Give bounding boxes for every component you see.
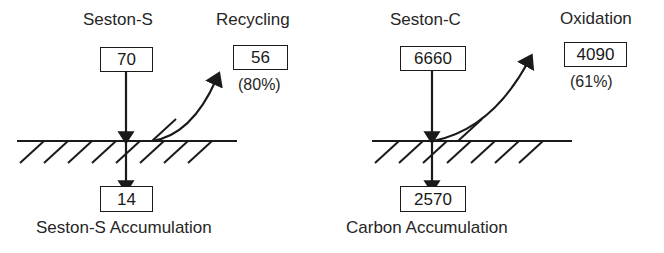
flux-percent: (61%) <box>570 73 613 91</box>
flux-percent: (80%) <box>238 76 281 94</box>
sink-value-box: 14 <box>100 186 153 212</box>
source-label: Seston-S <box>83 10 153 30</box>
sink-caption: Seston-S Accumulation <box>36 218 212 238</box>
source-label: Seston-C <box>390 10 461 30</box>
source-value-box: 6660 <box>400 46 466 71</box>
sediment-budget-figure: Seston-S 70 Recycling 56 (80%) 14 Seston… <box>0 0 664 253</box>
panel-sulfur-graphics <box>0 0 332 253</box>
flux-label: Oxidation <box>560 9 632 29</box>
flux-value-box: 56 <box>233 45 288 70</box>
sink-caption: Carbon Accumulation <box>346 218 508 238</box>
flux-label: Recycling <box>216 10 290 30</box>
panel-carbon: Seston-C 6660 Oxidation 4090 (61%) 2570 … <box>332 0 664 253</box>
arrow-oxidation-flux <box>433 62 528 141</box>
panel-carbon-graphics <box>332 0 664 253</box>
source-value-box: 70 <box>100 47 153 72</box>
sink-value-box: 2570 <box>400 186 466 212</box>
panel-sulfur: Seston-S 70 Recycling 56 (80%) 14 Seston… <box>0 0 332 253</box>
flux-value-box: 4090 <box>564 42 627 67</box>
